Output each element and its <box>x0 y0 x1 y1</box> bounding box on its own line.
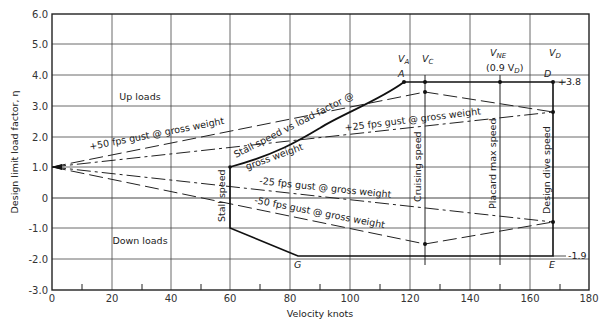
plus25-gust-label: +25 fps gust @ gross weight <box>344 105 482 133</box>
svg-text:D: D <box>544 68 551 79</box>
svg-text:A: A <box>397 68 405 79</box>
vd-symbol: VD <box>549 47 562 60</box>
svg-text:60: 60 <box>224 293 237 304</box>
svg-text:5.0: 5.0 <box>32 39 48 50</box>
svg-text:120: 120 <box>400 293 419 304</box>
cruising-speed-label: Cruising speed <box>412 131 423 202</box>
svg-text:G: G <box>294 259 301 270</box>
y-tick-labels: 6.0 5.0 4.0 3.0 2.0 1.0 0 -1.0 -2.0 -3.0 <box>28 9 48 296</box>
stall-speed-label: Stall speed <box>216 169 227 222</box>
x-minor-ticks <box>82 284 560 290</box>
vc-symbol: VC <box>422 53 434 66</box>
va-symbol: VA <box>398 53 410 66</box>
svg-text:-3.0: -3.0 <box>28 285 48 296</box>
x-axis-label: Velocity knots <box>287 308 353 319</box>
minus50-gust-label: -50 fps gust @ gross weight <box>254 194 387 230</box>
y-axis-label: Design limit load factor, η <box>9 91 20 214</box>
svg-text:160: 160 <box>520 293 539 304</box>
svg-text:20: 20 <box>106 293 119 304</box>
svg-text:6.0: 6.0 <box>32 9 48 20</box>
minus25-gust-label: -25 fps gust @ gross weight <box>259 175 392 200</box>
svg-text:180: 180 <box>579 293 598 304</box>
svg-text:E: E <box>549 259 555 270</box>
plus38-label: +3.8 <box>558 76 581 87</box>
svg-text:0: 0 <box>49 293 55 304</box>
minus19-label: -1.9 <box>568 250 587 261</box>
down-loads-label: Down loads <box>112 235 167 246</box>
speed-symbols: VA VC VNE VD <box>398 47 562 66</box>
svg-text:40: 40 <box>165 293 178 304</box>
svg-text:-2.0: -2.0 <box>28 254 48 265</box>
vne-symbol: VNE <box>490 47 507 60</box>
svg-text:140: 140 <box>460 293 479 304</box>
plus50-gust-line <box>52 92 553 167</box>
svg-text:1.0: 1.0 <box>32 162 48 173</box>
svg-text:100: 100 <box>340 293 359 304</box>
placard-speed-label: Placard max speed <box>487 119 498 209</box>
plot-frame <box>52 14 589 290</box>
svg-text:80: 80 <box>284 293 297 304</box>
svg-text:2.0: 2.0 <box>32 132 48 143</box>
svg-text:3.0: 3.0 <box>32 101 48 112</box>
svg-text:0: 0 <box>42 193 48 204</box>
x-tick-labels: 0 20 40 60 80 100 120 140 160 180 <box>49 293 599 304</box>
vne-note: (0.9 VD) <box>486 62 523 75</box>
svg-text:-1.0: -1.0 <box>28 223 48 234</box>
vn-diagram: 6.0 5.0 4.0 3.0 2.0 1.0 0 -1.0 -2.0 -3.0… <box>0 0 608 328</box>
svg-text:4.0: 4.0 <box>32 70 48 81</box>
up-loads-label: Up loads <box>119 91 160 102</box>
dive-speed-label: Design dive speed <box>541 126 552 214</box>
grid <box>52 14 589 290</box>
